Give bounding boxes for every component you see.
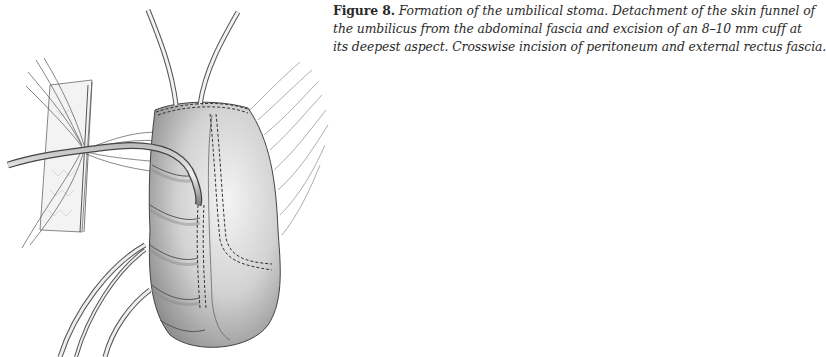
bowel-loop	[149, 102, 280, 347]
illustration-svg	[0, 0, 340, 357]
caption-line-2: the umbilicus from the abdominal fascia …	[333, 20, 701, 38]
caption-line-3: its deepest aspect. Crosswise incision o…	[333, 38, 701, 56]
figure-label: Figure 8.	[333, 3, 395, 18]
caption-line-1: Figure 8. Formation of the umbilical sto…	[333, 2, 701, 20]
caption-text-1: Formation of the umbilical stoma. Detach…	[395, 3, 815, 18]
figure-caption: Figure 8. Formation of the umbilical sto…	[333, 2, 701, 56]
surgical-illustration	[0, 0, 340, 357]
